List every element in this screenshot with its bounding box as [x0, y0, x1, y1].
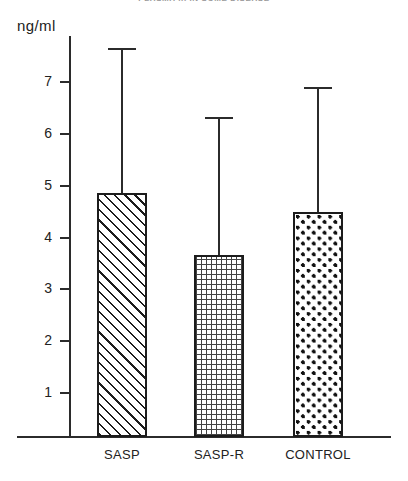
y-tick-label-1: 1	[14, 385, 52, 399]
x-category-label-sasp: SASP	[82, 447, 162, 462]
y-tick-label-wrap-2: 2	[0, 333, 52, 347]
y-tick-label-2: 2	[14, 333, 52, 347]
y-tick-mark-7	[60, 81, 70, 83]
y-tick-label-6: 6	[14, 126, 52, 140]
y-tick-mark-4	[60, 237, 70, 239]
y-tick-label-wrap-7: 7	[0, 74, 52, 88]
error-bar-stem-sasp-r	[218, 117, 220, 255]
y-tick-label-wrap-4: 4	[0, 230, 52, 244]
y-tick-label-wrap-3: 3	[0, 281, 52, 295]
x-category-label-sasp-r: SASP-R	[175, 447, 263, 462]
bar-control[interactable]	[293, 212, 343, 437]
chart-figure: PLASMA ... IN SOME DISEASE ng/ml 7 6 5 4…	[0, 0, 408, 481]
error-bar-cap-sasp	[108, 48, 136, 50]
error-bar-stem-control	[317, 87, 319, 212]
y-tick-mark-5	[60, 185, 70, 187]
y-tick-label-wrap-1: 1	[0, 385, 52, 399]
y-tick-label-7: 7	[14, 74, 52, 88]
y-tick-label-wrap-6: 6	[0, 126, 52, 140]
error-bar-cap-sasp-r	[205, 117, 233, 119]
y-tick-label-5: 5	[14, 178, 52, 192]
bar-sasp-r[interactable]	[194, 255, 244, 437]
y-tick-label-4: 4	[14, 230, 52, 244]
y-tick-label-3: 3	[14, 281, 52, 295]
y-tick-label-wrap-5: 5	[0, 178, 52, 192]
y-tick-mark-1	[60, 392, 70, 394]
plot-area: 7 6 5 4 3 2 1 SASP SAS	[0, 0, 408, 481]
y-tick-mark-2	[60, 340, 70, 342]
error-bar-stem-sasp	[121, 48, 123, 193]
bar-sasp[interactable]	[97, 193, 147, 437]
y-tick-mark-6	[60, 133, 70, 135]
error-bar-cap-control	[304, 87, 332, 89]
y-tick-mark-3	[60, 288, 70, 290]
x-category-label-control: CONTROL	[272, 447, 364, 462]
